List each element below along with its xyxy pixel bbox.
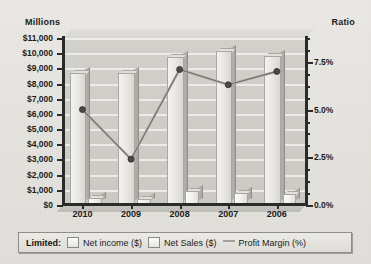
y-tick-right <box>306 62 313 64</box>
y-tick-label-left: $8,000 <box>27 79 53 89</box>
y-tick-right <box>306 157 313 159</box>
y-tick-label-right: 0.0% <box>314 200 333 210</box>
profit-margin-line-series <box>63 38 306 205</box>
y-tick-right <box>306 50 310 52</box>
y-tick-left <box>57 68 63 70</box>
y-tick-right <box>306 169 310 171</box>
y-tick-right <box>306 193 310 195</box>
y-tick-label-left: $6,000 <box>27 109 53 119</box>
y-tick-right <box>306 110 313 112</box>
y-tick-label-left: $3,000 <box>27 154 53 164</box>
net-income-swatch-icon <box>67 237 79 248</box>
x-tick-label: 2010 <box>59 209 105 219</box>
profit-margin-marker[interactable] <box>128 156 134 162</box>
y-tick-left <box>57 53 63 55</box>
y-tick-label-left: $0 <box>44 200 53 210</box>
y-tick-left <box>57 205 63 207</box>
y-tick-right <box>306 133 310 135</box>
chart-figure: Millions Ratio $0$1,000$2,000$3,000$4,00… <box>0 0 371 264</box>
y-tick-right <box>306 181 310 183</box>
x-tick-label: 2009 <box>108 209 154 219</box>
y-tick-right <box>306 145 310 147</box>
legend-label-profit-margin: Profit Margin (%) <box>239 238 307 248</box>
y-tick-right <box>306 74 310 76</box>
y-tick-label-right: 2.5% <box>314 152 333 162</box>
y-tick-label-right: 5.0% <box>314 105 333 115</box>
x-tick-label: 2006 <box>254 209 300 219</box>
y-tick-left <box>57 175 63 177</box>
y-tick-right <box>306 98 310 100</box>
profit-margin-marker[interactable] <box>79 107 85 113</box>
y-tick-label-left: $5,000 <box>27 124 53 134</box>
legend-label-net-income: Net income ($) <box>83 238 142 248</box>
y-tick-left <box>57 144 63 146</box>
left-axis-caption: Millions <box>25 17 60 27</box>
x-tick-label: 2008 <box>157 209 203 219</box>
legend-item-profit-margin[interactable]: Profit Margin (%) <box>223 238 307 248</box>
y-tick-label-left: $11,000 <box>23 33 53 43</box>
profit-margin-marker[interactable] <box>177 66 183 72</box>
profit-margin-line <box>82 69 276 159</box>
legend-label-net-sales: Net Sales ($) <box>164 238 217 248</box>
plot-area <box>63 38 306 205</box>
x-axis <box>62 203 308 206</box>
y-tick-label-left: $4,000 <box>27 139 53 149</box>
profit-margin-swatch-icon <box>223 240 235 245</box>
right-axis-caption: Ratio <box>332 17 356 27</box>
y-tick-label-left: $9,000 <box>27 63 53 73</box>
profit-margin-marker[interactable] <box>225 82 231 88</box>
y-tick-right <box>306 205 313 207</box>
legend-item-net-sales[interactable]: Net Sales ($) <box>148 237 217 248</box>
y-tick-left <box>57 190 63 192</box>
chart-legend: Limited: Net income ($) Net Sales ($) Pr… <box>18 232 352 253</box>
y-tick-left <box>57 38 63 40</box>
y-axis-left <box>62 36 65 206</box>
legend-title: Limited: <box>26 238 61 248</box>
y-tick-label-left: $10,000 <box>22 48 53 58</box>
y-tick-label-left: $2,000 <box>27 170 53 180</box>
profit-margin-line-core <box>82 69 276 159</box>
y-tick-label-right: 7.5% <box>314 57 333 67</box>
y-tick-left <box>57 99 63 101</box>
y-tick-label-left: $7,000 <box>27 94 53 104</box>
x-tick-label: 2007 <box>205 209 251 219</box>
y-tick-right <box>306 38 310 40</box>
y-tick-left <box>57 159 63 161</box>
y-tick-left <box>57 84 63 86</box>
legend-item-net-income[interactable]: Net income ($) <box>67 237 142 248</box>
y-tick-right <box>306 122 310 124</box>
y-tick-label-left: $1,000 <box>27 185 53 195</box>
net-sales-swatch-icon <box>148 237 160 248</box>
y-tick-right <box>306 86 310 88</box>
profit-margin-marker[interactable] <box>274 68 280 74</box>
y-tick-left <box>57 114 63 116</box>
y-tick-left <box>57 129 63 131</box>
